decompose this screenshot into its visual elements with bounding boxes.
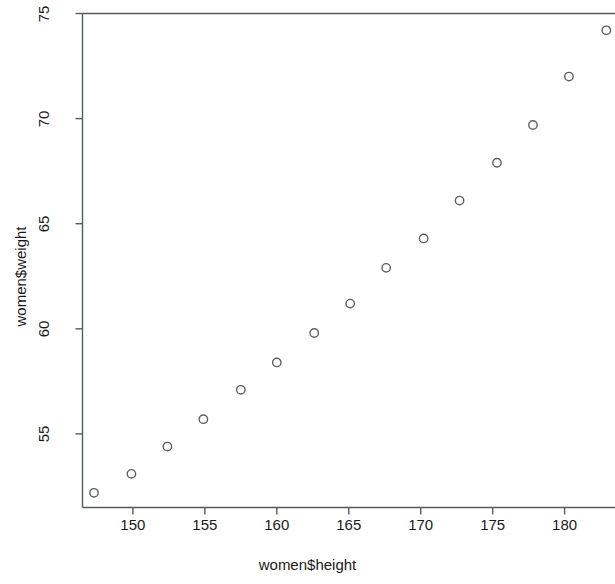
x-tick-label: 150 bbox=[120, 516, 145, 533]
data-point bbox=[199, 415, 207, 423]
data-point bbox=[565, 72, 573, 80]
data-points bbox=[90, 26, 611, 497]
axis-ticks bbox=[76, 14, 565, 515]
y-tick-label: 70 bbox=[35, 99, 53, 139]
data-point bbox=[382, 264, 390, 272]
data-point bbox=[493, 159, 501, 167]
data-point bbox=[310, 329, 318, 337]
data-point bbox=[602, 26, 610, 34]
data-point bbox=[127, 470, 135, 478]
plot-canvas bbox=[0, 0, 615, 584]
x-tick-label: 160 bbox=[264, 516, 289, 533]
data-point bbox=[273, 358, 281, 366]
data-point bbox=[419, 234, 427, 242]
data-point bbox=[455, 196, 463, 204]
x-tick-label: 155 bbox=[192, 516, 217, 533]
plot-box bbox=[83, 14, 615, 508]
x-tick-label: 175 bbox=[480, 516, 505, 533]
y-axis-title: women$weight bbox=[12, 187, 29, 367]
y-tick-label: 75 bbox=[35, 0, 53, 34]
data-point bbox=[90, 489, 98, 497]
data-point bbox=[346, 299, 354, 307]
x-tick-label: 180 bbox=[552, 516, 577, 533]
y-tick-label: 65 bbox=[35, 204, 53, 244]
data-point bbox=[237, 386, 245, 394]
scatter-plot: 150155160165170175180 5560657075 women$h… bbox=[0, 0, 615, 584]
data-point bbox=[529, 121, 537, 129]
x-tick-label: 165 bbox=[336, 516, 361, 533]
x-axis-title: women$height bbox=[0, 556, 615, 573]
x-tick-label: 170 bbox=[408, 516, 433, 533]
data-point bbox=[163, 442, 171, 450]
y-tick-label: 55 bbox=[35, 414, 53, 454]
y-tick-label: 60 bbox=[35, 309, 53, 349]
